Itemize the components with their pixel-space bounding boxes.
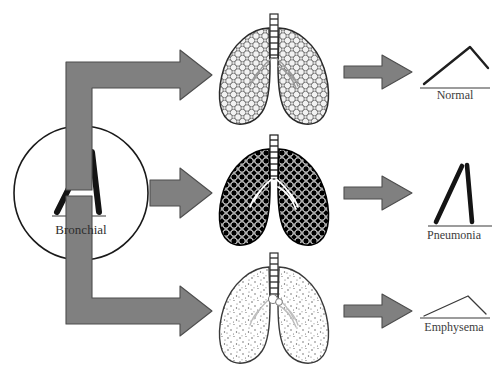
result-label-normal: Normal — [418, 88, 492, 103]
trachea-emphysema — [270, 253, 278, 297]
arrow-normal-lung-to-waveform — [344, 55, 412, 89]
diagram-svg — [0, 0, 496, 370]
pneumonia-waveform-icon — [428, 165, 492, 226]
arrow-pneumonia-lung-to-waveform — [344, 176, 412, 210]
trachea-pneumonia — [270, 135, 278, 179]
pneumonia-lung-icon — [219, 135, 328, 245]
result-label-emphysema: Emphysema — [412, 320, 496, 335]
normal-waveform-icon — [420, 47, 490, 88]
normal-lung-icon — [219, 14, 328, 124]
trachea-normal — [270, 14, 278, 58]
emphysema-lung-icon — [219, 253, 328, 363]
bronchial-label: Bronchial — [14, 222, 148, 238]
diagram-canvas: Bronchial Normal Pneumonia Emphysema — [0, 0, 496, 370]
arrow-source-to-pneumonia-lung — [150, 168, 212, 218]
result-label-pneumonia: Pneumonia — [412, 228, 496, 243]
arrow-emphysema-lung-to-waveform — [344, 294, 412, 328]
emphysema-waveform-icon — [420, 296, 490, 318]
